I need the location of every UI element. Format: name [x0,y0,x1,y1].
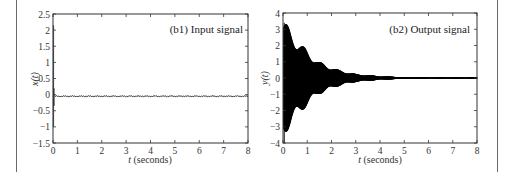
y-axis-title: y(t) [259,70,271,86]
x-tick-label: 8 [475,146,480,156]
y-tick-label: 2.5 [38,10,50,20]
output-signal-plot: 43210−1−2−3−4 012345678 (b2) Output sign… [259,9,480,167]
x-tick-label: 0 [51,146,56,156]
y-tick-label: 2 [275,41,280,51]
y-tick-label: 0 [45,90,50,100]
y-tick-label: 2 [45,26,50,36]
y-tick-label: 3 [275,25,280,35]
panel-label: (b1) Input signal [170,23,243,36]
y-tick-label: −1 [270,90,280,100]
figure: 2.521.510.50−0.5−1−1.5 012345678 (b1) In… [0,0,506,172]
x-tick-label: 7 [450,146,455,156]
x-tick-label: 2 [329,146,334,156]
y-axis-title: x(t) [29,71,41,87]
input-signal-trace [53,25,248,127]
x-tick-label: 8 [246,146,251,156]
x-tick-label: 0 [281,146,286,156]
output-signal-trace [283,23,477,143]
x-tick-label: 1 [305,146,310,156]
panel-label: (b2) Output signal [389,23,470,36]
x-tick-label: 7 [221,146,226,156]
x-axis-title: t (seconds) [358,154,402,166]
y-tick-label: 4 [275,9,280,19]
x-tick-label: 1 [75,146,80,156]
y-tick-label: −4 [270,139,280,149]
y-tick-label: −0.5 [33,106,50,116]
y-tick-label: −3 [270,122,280,132]
y-tick-label: 1.5 [38,42,50,52]
input-signal-plot: 2.521.510.50−0.5−1−1.5 012345678 (b1) In… [29,10,251,167]
y-tick-label: −1 [40,122,50,132]
y-tick-label: 1 [275,57,280,67]
x-tick-label: 6 [426,146,431,156]
y-tick-label: 0 [275,74,280,84]
y-tick-label: 1 [45,58,50,68]
x-tick-label: 5 [173,146,178,156]
y-tick-label: −2 [270,106,280,116]
x-tick-label: 2 [99,146,104,156]
x-tick-label: 5 [402,146,407,156]
y-tick-label: −1.5 [33,139,50,149]
y-tick-labels: 43210−1−2−3−4 [270,9,280,149]
x-axis-title: t (seconds) [128,154,172,166]
x-tick-label: 6 [197,146,202,156]
